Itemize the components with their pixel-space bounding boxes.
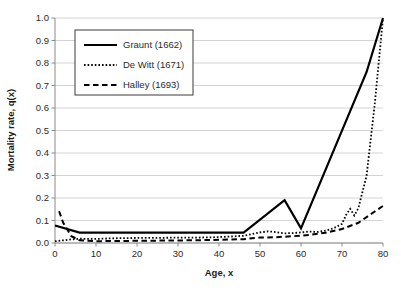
x-tick-label: 10 xyxy=(91,248,102,259)
x-tick-label: 70 xyxy=(337,248,348,259)
legend-label[interactable]: De Witt (1671) xyxy=(123,59,184,70)
x-tick-label: 40 xyxy=(214,248,225,259)
y-tick-label: 0.8 xyxy=(36,57,49,68)
legend-label[interactable]: Halley (1693) xyxy=(123,79,180,90)
y-tick-label: 0.5 xyxy=(36,125,49,136)
x-tick-label: 50 xyxy=(255,248,266,259)
chart-legend[interactable]: Graunt (1662)De Witt (1671)Halley (1693) xyxy=(75,30,193,95)
chart-background xyxy=(0,0,401,290)
y-tick-label: 0.6 xyxy=(36,102,49,113)
chart-canvas: 0.00.10.20.30.40.50.60.70.80.91.0 010203… xyxy=(0,0,401,290)
mortality-rate-chart: 0.00.10.20.30.40.50.60.70.80.91.0 010203… xyxy=(0,0,401,290)
x-tick-label: 30 xyxy=(173,248,184,259)
y-tick-label: 0.9 xyxy=(36,35,49,46)
x-tick-label: 80 xyxy=(378,248,389,259)
x-axis-title: Age, x xyxy=(205,267,234,278)
y-tick-label: 0.2 xyxy=(36,192,49,203)
y-tick-label: 0.4 xyxy=(36,147,49,158)
x-tick-label: 20 xyxy=(132,248,143,259)
y-tick-label: 0.0 xyxy=(36,237,49,248)
y-tick-label: 1.0 xyxy=(36,12,49,23)
y-tick-label: 0.1 xyxy=(36,215,49,226)
legend-label[interactable]: Graunt (1662) xyxy=(123,39,182,50)
y-tick-label: 0.3 xyxy=(36,170,49,181)
y-tick-label: 0.7 xyxy=(36,80,49,91)
x-tick-label: 60 xyxy=(296,248,307,259)
x-tick-label: 0 xyxy=(52,248,57,259)
y-axis-title: Mortality rate, q(x) xyxy=(5,89,16,171)
